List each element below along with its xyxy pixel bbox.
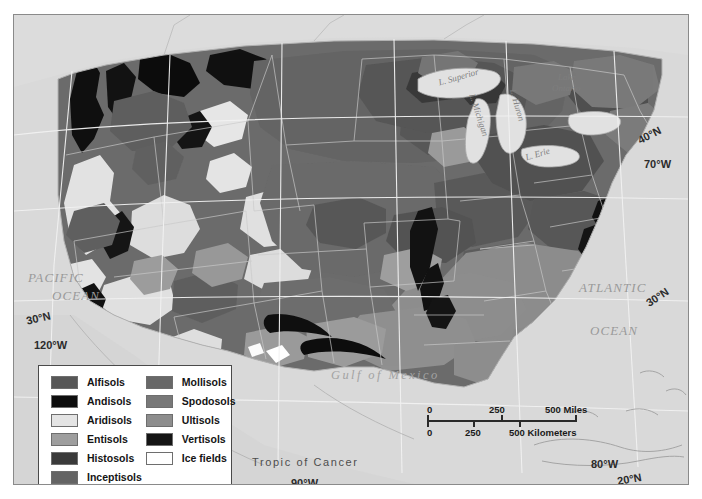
legend-label-histosols: Histosols xyxy=(87,452,134,464)
scale-km-0: 0 xyxy=(427,427,432,438)
soil-map-page: PACIFIC OCEAN ATLANTIC OCEAN Gulf of Mex… xyxy=(0,0,702,499)
legend-swatch-vertisols xyxy=(146,433,173,446)
legend-label-ultisols: Ultisols xyxy=(182,414,220,426)
legend-swatch-andisols xyxy=(51,395,78,408)
legend-label-alfisols: Alfisols xyxy=(87,376,125,388)
legend-item-andisols[interactable]: Andisols xyxy=(51,392,142,410)
legend-swatch-ice-fields xyxy=(146,452,173,465)
legend-item-aridisols[interactable]: Aridisols xyxy=(51,411,142,429)
scale-bar-miles-labels: 0 250 500 Miles xyxy=(427,404,597,417)
legend-label-spodosols: Spodosols xyxy=(182,395,236,407)
scale-bar-km-labels: 0 250 500 Kilometers xyxy=(427,427,597,440)
legend-item-inceptisols[interactable]: Inceptisols xyxy=(51,468,142,485)
legend-label-andisols: Andisols xyxy=(87,395,131,407)
legend-label-mollisols: Mollisols xyxy=(182,376,227,388)
scale-bar-line xyxy=(427,417,597,424)
legend-column-1: Alfisols Andisols Aridisols Entisols xyxy=(51,373,142,485)
legend-item-ice-fields[interactable]: Ice fields xyxy=(146,449,236,467)
legend-swatch-mollisols xyxy=(146,376,173,389)
scale-miles-250: 250 xyxy=(489,404,505,415)
legend-label-aridisols: Aridisols xyxy=(87,414,132,426)
legend-item-spodosols[interactable]: Spodosols xyxy=(146,392,236,410)
legend-label-ice-fields: Ice fields xyxy=(182,452,227,464)
legend-swatch-entisols xyxy=(51,433,78,446)
legend-swatch-histosols xyxy=(51,452,78,465)
legend-label-vertisols: Vertisols xyxy=(182,433,226,445)
legend-swatch-ultisols xyxy=(146,414,173,427)
legend-swatch-spodosols xyxy=(146,395,173,408)
scale-km-250: 250 xyxy=(465,427,481,438)
map-legend: Alfisols Andisols Aridisols Entisols xyxy=(38,365,232,485)
legend-item-ultisols[interactable]: Ultisols xyxy=(146,411,236,429)
legend-label-entisols: Entisols xyxy=(87,433,128,445)
scale-miles-0: 0 xyxy=(427,404,432,415)
legend-item-vertisols[interactable]: Vertisols xyxy=(146,430,236,448)
legend-swatch-inceptisols xyxy=(51,471,78,484)
scale-km-500: 500 Kilometers xyxy=(509,427,577,438)
legend-item-entisols[interactable]: Entisols xyxy=(51,430,142,448)
legend-swatch-alfisols xyxy=(51,376,78,389)
legend-swatch-aridisols xyxy=(51,414,78,427)
legend-item-histosols[interactable]: Histosols xyxy=(51,449,142,467)
scale-miles-500: 500 Miles xyxy=(545,404,587,415)
legend-label-inceptisols: Inceptisols xyxy=(87,471,142,483)
legend-item-alfisols[interactable]: Alfisols xyxy=(51,373,142,391)
scale-bar: 0 250 500 Miles 0 250 500 Kilometers xyxy=(427,404,597,440)
legend-column-2: Mollisols Spodosols Ultisols Vertisols xyxy=(146,373,236,485)
map-frame: PACIFIC OCEAN ATLANTIC OCEAN Gulf of Mex… xyxy=(13,14,689,485)
legend-item-mollisols[interactable]: Mollisols xyxy=(146,373,236,391)
